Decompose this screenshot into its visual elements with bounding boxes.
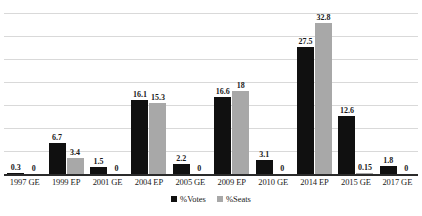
bar-value-label: 16.1	[133, 91, 147, 99]
x-tick-label: 2010 GE	[252, 177, 293, 187]
bar-value-label: 1.5	[94, 158, 104, 166]
x-tick-label: 2017 GE	[377, 177, 418, 187]
x-tick-label: 2005 GE	[170, 177, 211, 187]
bar-slot: 1.5	[90, 8, 107, 174]
bar-votes[interactable]	[49, 143, 66, 174]
bar-value-label: 12.6	[340, 107, 354, 115]
bar-votes[interactable]	[380, 166, 397, 174]
bar-value-label: 0	[197, 165, 201, 173]
bar-group[interactable]: 1.50	[87, 8, 128, 174]
bar-slot: 6.7	[49, 8, 66, 174]
bar-value-label: 3.1	[259, 151, 269, 159]
bar-seats[interactable]	[232, 91, 249, 174]
bar-value-label: 3.4	[70, 149, 80, 157]
bar-value-label: 1.8	[383, 157, 393, 165]
bar-slot: 15.3	[149, 8, 166, 174]
bar-seats[interactable]	[315, 23, 332, 174]
x-tick-label: 1997 GE	[4, 177, 45, 187]
x-tick-label: 2015 GE	[335, 177, 376, 187]
bar-value-label: 18	[237, 82, 245, 90]
bar-slot: 0	[274, 8, 291, 174]
bar-slot: 0.15	[356, 8, 373, 174]
bar-votes[interactable]	[131, 100, 148, 174]
bar-slot: 18	[232, 8, 249, 174]
bar-slot: 0	[398, 8, 415, 174]
bar-value-label: 32.8	[317, 14, 331, 22]
x-axis-tick-labels: 1997 GE1999 EP2001 GE2004 EP2005 GE2009 …	[4, 177, 418, 187]
bar-group[interactable]: 12.60.15	[335, 8, 376, 174]
bar-value-label: 15.3	[151, 94, 165, 102]
bar-slot: 0	[25, 8, 42, 174]
legend-entry[interactable]: %Votes	[171, 194, 206, 204]
bar-group[interactable]: 3.10	[252, 8, 293, 174]
bar-value-label: 16.6	[216, 88, 230, 96]
bar-chart: 0.306.73.41.5016.115.32.2016.6183.1027.5…	[0, 0, 422, 216]
bar-slot: 32.8	[315, 8, 332, 174]
x-tick-label: 1999 EP	[45, 177, 86, 187]
bar-votes[interactable]	[173, 164, 190, 174]
bar-slot: 16.1	[131, 8, 148, 174]
x-tick-label: 2004 EP	[128, 177, 169, 187]
bar-group[interactable]: 16.618	[211, 8, 252, 174]
legend-swatch-icon	[171, 196, 177, 202]
bar-slot: 16.6	[214, 8, 231, 174]
bar-slot: 3.1	[256, 8, 273, 174]
bar-value-label: 6.7	[52, 134, 62, 142]
x-tick-label: 2014 EP	[294, 177, 335, 187]
bar-slot: 0.3	[7, 8, 24, 174]
bar-value-label: 27.5	[299, 38, 313, 46]
bar-slot: 3.4	[67, 8, 84, 174]
bar-votes[interactable]	[90, 167, 107, 174]
bar-slot: 0	[191, 8, 208, 174]
legend-label: %Votes	[180, 194, 206, 204]
bar-group[interactable]: 16.115.3	[128, 8, 169, 174]
bar-slot: 1.8	[380, 8, 397, 174]
bar-slot: 2.2	[173, 8, 190, 174]
bar-slot: 27.5	[297, 8, 314, 174]
bar-votes[interactable]	[338, 116, 355, 174]
x-tick-label: 2001 GE	[87, 177, 128, 187]
bar-value-label: 0	[115, 165, 119, 173]
legend-entry[interactable]: %Seats	[217, 194, 251, 204]
bar-seats[interactable]	[149, 103, 166, 174]
bar-group[interactable]: 2.20	[170, 8, 211, 174]
plot-area: 0.306.73.41.5016.115.32.2016.6183.1027.5…	[4, 8, 418, 175]
legend-swatch-icon	[217, 196, 223, 202]
legend-label: %Seats	[226, 194, 251, 204]
bar-group[interactable]: 1.80	[377, 8, 418, 174]
bar-slot: 0	[108, 8, 125, 174]
chart-legend: %Votes%Seats	[0, 194, 422, 204]
bar-value-label: 0.15	[358, 164, 372, 172]
bar-value-label: 0.3	[11, 164, 21, 172]
bar-votes[interactable]	[297, 47, 314, 174]
x-axis-line	[4, 174, 418, 176]
bar-group[interactable]: 27.532.8	[294, 8, 335, 174]
bar-votes[interactable]	[214, 97, 231, 174]
bar-value-label: 2.2	[176, 155, 186, 163]
bar-value-label: 0	[404, 165, 408, 173]
bar-group[interactable]: 0.30	[4, 8, 45, 174]
x-tick-label: 2009 EP	[211, 177, 252, 187]
bar-value-label: 0	[280, 165, 284, 173]
bar-seats[interactable]	[67, 158, 84, 174]
bar-group[interactable]: 6.73.4	[45, 8, 86, 174]
bar-value-label: 0	[32, 165, 36, 173]
bar-slot: 12.6	[338, 8, 355, 174]
bars-layer: 0.306.73.41.5016.115.32.2016.6183.1027.5…	[4, 8, 418, 174]
bar-votes[interactable]	[256, 160, 273, 174]
